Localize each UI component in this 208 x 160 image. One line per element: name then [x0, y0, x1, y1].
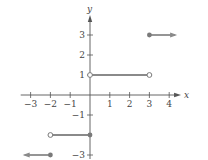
segment-0-to-3-open-point [147, 73, 152, 78]
y-axis-label: y [86, 4, 93, 14]
segment-neg2-to-0-closed-point [88, 133, 93, 138]
x-tick-label: −3 [24, 99, 38, 109]
y-tick-label: 3 [79, 30, 85, 40]
y-axis-arrow [88, 15, 92, 22]
segment-0-to-3-open-point [88, 73, 93, 78]
segment-neg2-to-0-open-point [48, 133, 53, 138]
y-tick-label: −1 [72, 110, 85, 120]
left-ray-closed-point [48, 153, 53, 158]
x-axis-label: x [184, 90, 189, 100]
axes: xy−3−2−11234−3−1123 [21, 4, 189, 160]
right-ray-arrowhead [170, 33, 177, 38]
x-tick-label: −2 [44, 99, 57, 109]
y-tick-label: 1 [79, 70, 85, 80]
left-ray-arrowhead [23, 153, 30, 158]
y-tick-label: −3 [72, 150, 86, 160]
x-tick-label: 1 [107, 99, 113, 109]
x-tick-label: 2 [127, 99, 133, 109]
x-tick-label: 4 [166, 99, 172, 109]
x-axis-arrow [174, 93, 181, 97]
step-function-chart: xy−3−2−11234−3−1123 [0, 0, 208, 160]
right-ray-closed-point [147, 33, 152, 38]
y-tick-label: 2 [79, 50, 85, 60]
x-tick-label: 3 [147, 99, 153, 109]
x-tick-label: −1 [64, 99, 77, 109]
